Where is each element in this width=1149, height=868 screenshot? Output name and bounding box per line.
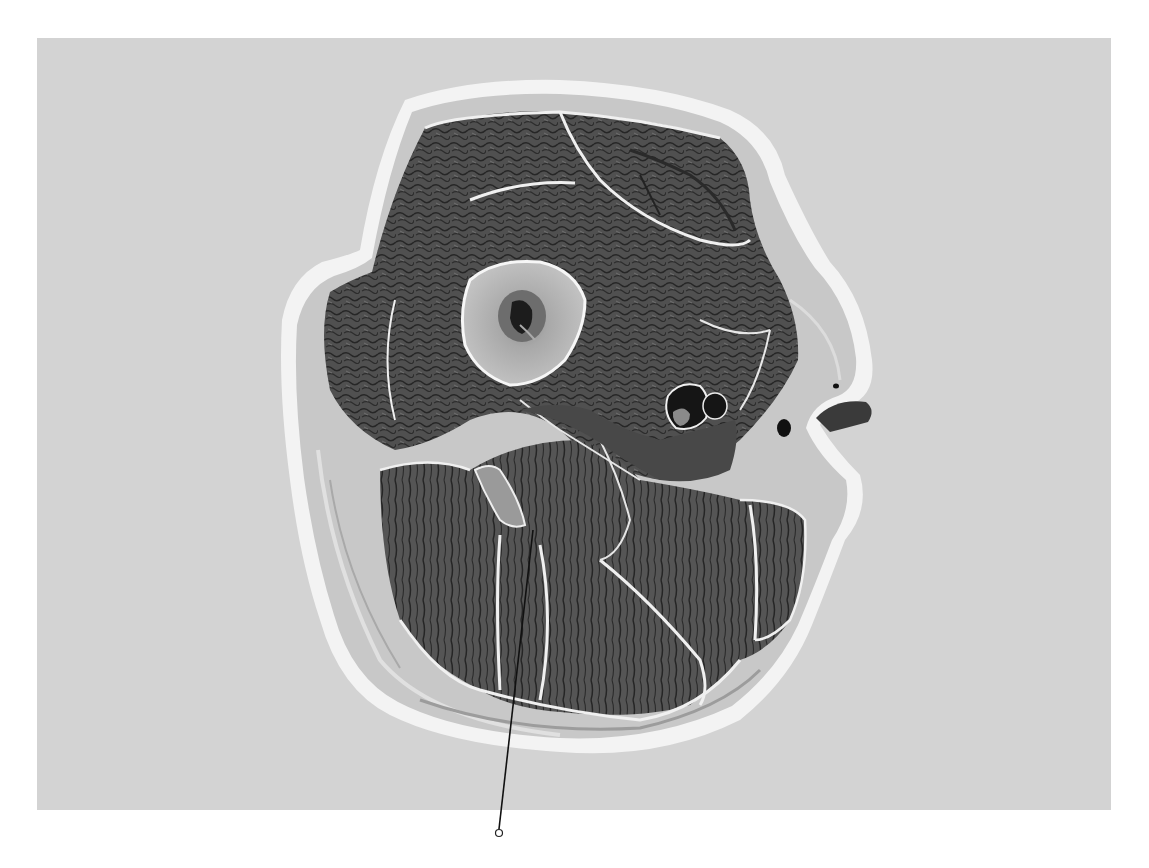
great-saphenous-vein: [777, 419, 791, 437]
anatomy-figure: [0, 0, 1149, 868]
leader-end-marker: [496, 830, 503, 837]
cross-section-illustration: [0, 0, 1149, 868]
